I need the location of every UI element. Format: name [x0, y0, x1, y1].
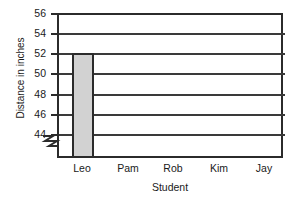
- gridline-54: [59, 33, 285, 35]
- y-tick-label-54: 54: [22, 28, 46, 39]
- y-tick-label-50: 50: [22, 68, 46, 79]
- x-axis-label: Student: [120, 181, 220, 193]
- x-tick-label-kim: Kim: [197, 162, 241, 174]
- plot-area: [57, 13, 283, 158]
- y-tick-label-56: 56: [22, 8, 46, 19]
- y-tick-label-52: 52: [22, 48, 46, 59]
- bar-leo[interactable]: [72, 53, 94, 158]
- y-tick-label-46: 46: [22, 109, 46, 120]
- axis-break-icon: [40, 130, 66, 152]
- x-tick-label-jay: Jay: [242, 162, 286, 174]
- bar-chart: Distance in inches 56 54 52 50 48 46 44 …: [0, 0, 296, 205]
- x-tick-label-rob: Rob: [151, 162, 195, 174]
- y-tick-label-48: 48: [22, 89, 46, 100]
- x-tick-label-pam: Pam: [106, 162, 150, 174]
- x-tick-label-leo: Leo: [60, 162, 104, 174]
